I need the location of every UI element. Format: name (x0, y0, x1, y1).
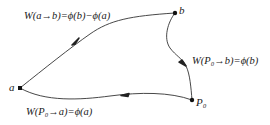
edge-label-a-to-b: W(a→b)=ϕ(b)−ϕ(a) (24, 11, 110, 22)
edge-b-to-p0 (167, 13, 192, 100)
arrow-p0-to-a-icon (121, 94, 129, 97)
point-a (18, 86, 22, 90)
edge-label-p0-to-a: W(P₀→a)=ϕ(a) (26, 107, 92, 118)
point-a-label: a (9, 82, 15, 93)
work-potential-diagram: a b P₀ W(a→b)=ϕ(b)−ϕ(a) W(P₀→b)=ϕ(b) W(P… (0, 0, 270, 125)
point-p0 (190, 98, 194, 102)
point-b (173, 11, 177, 15)
point-p0-label: P₀ (196, 97, 207, 108)
arrow-a-to-b-icon (72, 38, 79, 45)
point-b-label: b (179, 5, 185, 16)
edge-label-p0-to-b: W(P₀→b)=ϕ(b) (192, 56, 258, 67)
arrow-b-to-p0-icon (179, 60, 186, 66)
edge-a-to-b (20, 13, 175, 88)
edge-p0-to-a (20, 88, 192, 100)
